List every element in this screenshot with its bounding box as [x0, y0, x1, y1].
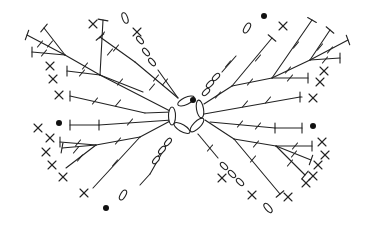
stitch-tick-mark: [323, 57, 328, 63]
stitch-stem-line: [210, 122, 275, 128]
single-crochet-icon: [42, 148, 50, 156]
stitch-tick-mark: [74, 147, 79, 153]
stitch-cap-icon: [326, 27, 334, 33]
chain-stitch-icon: [118, 189, 128, 201]
stitch-stem-line: [272, 20, 312, 78]
stitch-cap-icon: [268, 35, 276, 41]
single-crochet-icon: [320, 67, 328, 75]
stitch-cap-icon: [308, 18, 317, 23]
single-crochet-icon: [309, 94, 317, 102]
stitch-stem-line: [70, 96, 145, 113]
stitch-stem-line: [140, 174, 150, 185]
single-crochet-icon: [302, 179, 310, 187]
stitch-caps: [25, 18, 349, 198]
single-crochet-icon: [318, 138, 326, 146]
stitch-tick-mark: [238, 121, 243, 127]
chain-stitch-icon: [219, 161, 229, 171]
stitch-stem-line: [198, 134, 218, 158]
stitch-tick-mark: [288, 160, 293, 166]
cap-bar: [268, 35, 276, 41]
stitch-cap-icon: [25, 30, 28, 39]
chain-stitch-icon: [227, 169, 237, 179]
chain-stitch-icon: [235, 177, 245, 187]
stitch-stems: [27, 20, 348, 194]
slip-stitch-dot-icon: [190, 97, 196, 103]
stitch-stem-line: [100, 20, 103, 75]
chain-stitch-icon: [147, 57, 156, 67]
center-ring: [169, 94, 206, 136]
single-crochet-icon: [59, 173, 67, 181]
stitch-stem-line: [276, 146, 305, 175]
stitch-tick-mark: [116, 100, 121, 106]
stitch-tick-mark: [48, 41, 53, 47]
stitch-stem-line: [135, 62, 178, 98]
stitch-tick-mark: [128, 119, 133, 125]
single-crochet-icon: [316, 78, 324, 86]
stitch-stem-line: [99, 120, 172, 125]
stitch-tick-mark: [150, 84, 155, 90]
stitch-stem-line: [310, 40, 348, 60]
chain-stitch-icon: [135, 35, 144, 45]
single-crochet-icon: [80, 189, 88, 197]
stitch-stem-line: [100, 75, 143, 92]
stitch-stem-line: [44, 28, 65, 55]
single-crochet-icon: [321, 151, 329, 159]
single-crochet-icons: [34, 20, 329, 201]
single-crochet-icon: [48, 161, 56, 169]
slip-stitch-dots: [56, 13, 316, 211]
single-crochet-icon: [314, 161, 322, 169]
stitch-stem-line: [222, 56, 236, 72]
chain-stitch-icon: [157, 145, 166, 155]
chain-stitch-icon: [121, 12, 130, 24]
crochet-butterfly-diagram: Crochet butterfly chart: [0, 0, 366, 228]
stitch-stem-line: [62, 145, 96, 148]
stitch-tick-mark: [216, 92, 221, 98]
stitch-stem-line: [310, 30, 330, 60]
stitch-stem-line: [204, 97, 300, 114]
cap-bar: [25, 30, 28, 39]
single-crochet-icon: [284, 193, 292, 201]
ring-chain-icon: [195, 100, 205, 119]
chain-stitch-icon: [151, 155, 160, 165]
slip-stitch-dot-icon: [103, 205, 109, 211]
ring-chain-icon: [172, 120, 191, 135]
stitch-tick-mark: [226, 61, 231, 67]
slip-stitch-dot-icon: [56, 120, 62, 126]
stitch-stem-line: [140, 120, 172, 137]
slip-stitch-dot-icon: [261, 13, 267, 19]
cap-bar: [326, 27, 334, 33]
stitch-tick-mark: [256, 55, 261, 61]
stitch-tick-mark: [108, 49, 113, 55]
stitch-stem-line: [100, 75, 172, 112]
ring-chain-icon: [188, 116, 206, 134]
stitch-stem-line: [100, 37, 135, 62]
single-crochet-icon: [133, 28, 141, 36]
cap-bar: [346, 35, 349, 44]
chain-stitch-icon: [141, 47, 150, 57]
chain-stitch-icon: [242, 22, 252, 34]
stitch-cap-icon: [346, 35, 349, 44]
single-crochet-icon: [218, 174, 226, 182]
single-crochet-icon: [46, 134, 54, 142]
slip-stitch-dot-icon: [310, 123, 316, 129]
chain-stitch-icon: [211, 72, 221, 82]
single-crochet-icon: [248, 191, 256, 199]
cap-bar: [308, 18, 317, 23]
chain-stitch-icon: [262, 202, 273, 214]
single-crochet-icon: [49, 75, 57, 83]
butterfly-chart-canvas: [0, 0, 366, 228]
single-crochet-icon: [89, 20, 97, 28]
cap-bar: [276, 191, 284, 197]
ring-chain-icon: [169, 107, 176, 125]
stitch-stem-line: [145, 112, 172, 113]
chain-stitch-icon: [201, 87, 211, 97]
single-crochet-icon: [55, 91, 63, 99]
chain-stitch-icon: [163, 137, 172, 147]
stitch-cap-icon: [276, 191, 284, 197]
single-crochet-icon: [279, 22, 287, 30]
single-crochet-icon: [34, 124, 42, 132]
single-crochet-icon: [46, 62, 54, 70]
